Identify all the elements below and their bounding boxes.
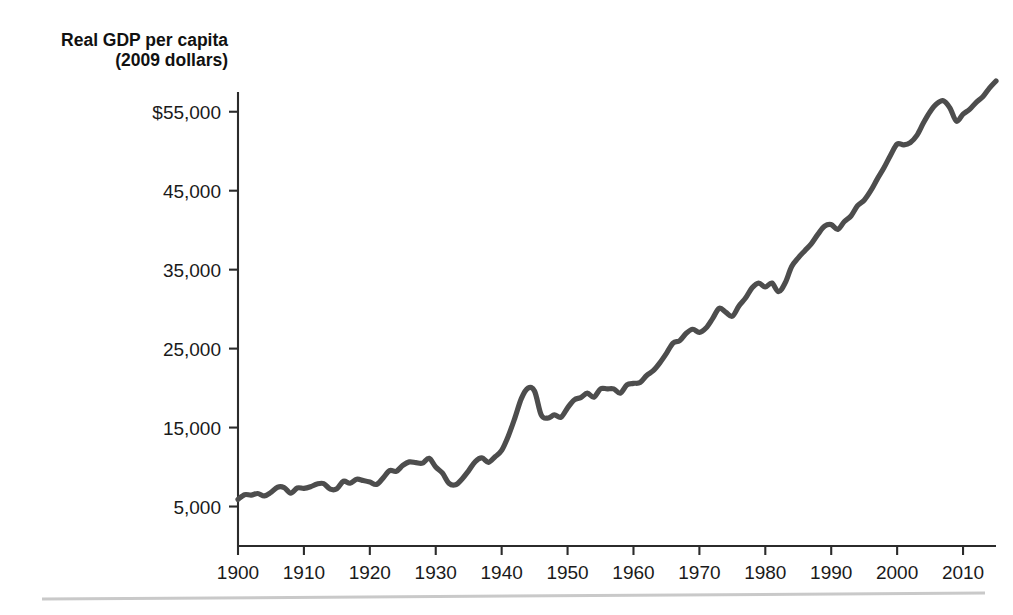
y-axis-title-line-1: Real GDP per capita — [61, 30, 228, 50]
y-tick-label: 15,000 — [163, 418, 221, 439]
chart-background — [0, 0, 1013, 615]
x-tick-label: 1990 — [810, 562, 852, 583]
y-tick-label: 5,000 — [173, 497, 221, 518]
x-tick-label: 1900 — [217, 562, 259, 583]
y-tick-label: 25,000 — [163, 339, 221, 360]
x-tick-label: 1980 — [744, 562, 786, 583]
x-tick-label: 2010 — [942, 562, 984, 583]
x-tick-label: 1950 — [546, 562, 588, 583]
x-tick-label: 1970 — [678, 562, 720, 583]
y-axis-title-line-2: (2009 dollars) — [115, 50, 228, 70]
x-tick-label: 1930 — [415, 562, 457, 583]
y-tick-label: 35,000 — [163, 260, 221, 281]
x-tick-label: 1940 — [481, 562, 523, 583]
x-tick-label: 1910 — [283, 562, 325, 583]
x-tick-label: 2000 — [876, 562, 918, 583]
chart-figure: Real GDP per capita (2009 dollars) 5,000… — [0, 0, 1013, 615]
y-tick-label: $55,000 — [152, 102, 221, 123]
x-tick-label: 1960 — [612, 562, 654, 583]
y-tick-label: 45,000 — [163, 181, 221, 202]
x-tick-label: 1920 — [349, 562, 391, 583]
